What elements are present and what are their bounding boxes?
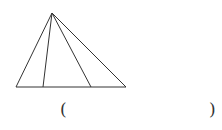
inner-segment-2	[52, 13, 91, 87]
triangle-left-side	[16, 13, 52, 87]
answer-close-paren: )	[209, 101, 216, 118]
triangle-right-side	[52, 13, 126, 87]
answer-open-paren: (	[60, 101, 67, 118]
inner-segment-1	[43, 13, 52, 87]
triangle-figure	[0, 0, 222, 130]
